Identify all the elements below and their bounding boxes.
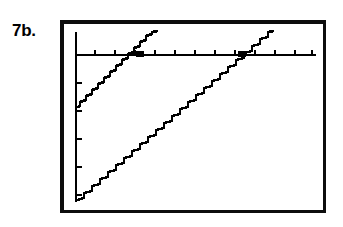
figure-container: 7b. [0, 0, 343, 227]
graph-svg [60, 20, 326, 213]
intersection-marker-1 [136, 51, 144, 57]
plot-background [66, 26, 320, 207]
intersection-marker-2 [238, 51, 246, 57]
problem-number-label: 7b. [12, 22, 36, 39]
calculator-screen [60, 20, 326, 213]
